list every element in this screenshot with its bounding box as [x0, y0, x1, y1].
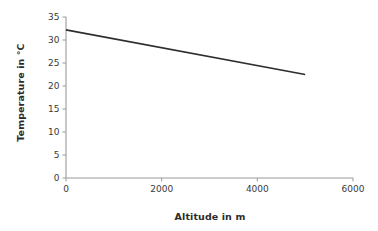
x-axis-ticks: 0200040006000 [63, 178, 365, 194]
y-axis-group: 05101520253035 [48, 12, 66, 183]
y-axis-tick-label: 10 [48, 127, 60, 137]
y-axis-tick-label: 20 [48, 81, 60, 91]
data-series-group [66, 30, 305, 75]
y-axis-tick-label: 25 [48, 58, 59, 68]
y-axis-tick-label: 15 [48, 104, 59, 114]
x-axis-title-label: Altitude in m [175, 211, 246, 222]
y-axis-title-label: Temperature in °C [15, 43, 26, 141]
y-axis-tick-label: 35 [48, 12, 59, 22]
y-axis-ticks: 05101520253035 [48, 12, 66, 183]
chart-figure: Temperature in °C Altitude in m 05101520… [0, 0, 378, 231]
y-axis-tick-label: 30 [48, 35, 60, 45]
line-chart-plot: 05101520253035 0200040006000 [0, 0, 378, 231]
x-axis-tick-label: 0 [63, 184, 69, 194]
x-axis-title: Altitude in m [66, 205, 354, 224]
x-axis-tick-label: 6000 [342, 184, 365, 194]
data-series-line [66, 30, 305, 75]
y-axis-title: Temperature in °C [8, 0, 32, 185]
x-axis-tick-label: 2000 [150, 184, 173, 194]
x-axis-group: 0200040006000 [63, 178, 365, 194]
y-axis-tick-label: 0 [54, 173, 60, 183]
x-axis-tick-label: 4000 [246, 184, 269, 194]
y-axis-tick-label: 5 [54, 150, 60, 160]
